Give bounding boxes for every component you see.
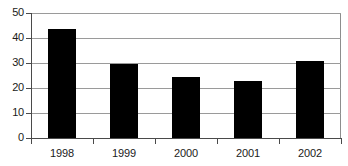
bars-layer (31, 13, 341, 138)
bar-slot (31, 13, 93, 138)
y-axis-tick-label: 20 (0, 82, 24, 93)
y-axis-tick-label: 30 (0, 57, 24, 68)
x-axis-tick (217, 139, 218, 144)
y-axis-tick-label: 10 (0, 107, 24, 118)
x-axis-tick (93, 139, 94, 144)
y-axis-tick-label-text: 50 (0, 7, 24, 18)
x-axis-tick-label: 2001 (217, 147, 279, 159)
bar[interactable] (172, 77, 200, 138)
bar[interactable] (296, 61, 324, 139)
y-axis-tick-label: 50 (0, 7, 24, 18)
bar-chart: 01020304050 19981999200020012002 (0, 0, 348, 166)
y-axis-tick-label: 0 (0, 132, 24, 143)
bar-slot (155, 13, 217, 138)
x-axis-line (31, 138, 342, 139)
y-axis-tick-label-text: 30 (0, 57, 24, 68)
x-axis-tick-label: 2002 (279, 147, 341, 159)
bar[interactable] (48, 29, 76, 138)
x-axis-tick-label: 2000 (155, 147, 217, 159)
y-axis-tick-label-text: 20 (0, 82, 24, 93)
x-axis-tick (341, 139, 342, 144)
y-axis-tick-label-text: 10 (0, 107, 24, 118)
x-axis-tick-label: 1999 (93, 147, 155, 159)
y-axis-tick-label-text: 40 (0, 32, 24, 43)
x-axis-tick-label: 1998 (31, 147, 93, 159)
x-axis-tick (31, 139, 32, 144)
x-axis-tick (155, 139, 156, 144)
y-axis-tick-label: 40 (0, 32, 24, 43)
bar[interactable] (234, 81, 262, 139)
y-axis-tick-label-text: 0 (0, 132, 24, 143)
bar[interactable] (110, 64, 138, 138)
bar-slot (93, 13, 155, 138)
x-axis-tick (279, 139, 280, 144)
bar-slot (217, 13, 279, 138)
bar-slot (279, 13, 341, 138)
